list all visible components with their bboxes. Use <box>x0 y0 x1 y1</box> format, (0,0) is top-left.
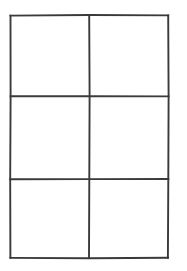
grid-cell-r3-c1[interactable] <box>10 179 89 258</box>
page-canvas <box>0 0 187 271</box>
grid-cell-r2-c1[interactable] <box>10 96 89 179</box>
grid-cell-r3-c2[interactable] <box>89 179 168 258</box>
grid-cell-r1-c1[interactable] <box>10 15 89 96</box>
grid-border-right <box>168 15 169 257</box>
grid-cell-r2-c2[interactable] <box>89 96 168 179</box>
grid-cell-r1-c2[interactable] <box>89 15 168 96</box>
